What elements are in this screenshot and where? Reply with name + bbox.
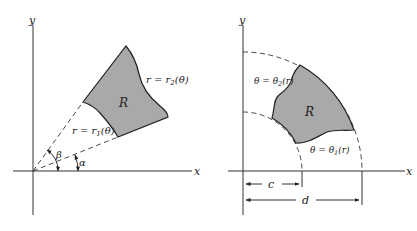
left-y-axis-label: y [28,14,36,27]
left-diagram: y x β α R r = r2(θ) r = r1(θ) [13,14,201,215]
outer-radius-label: d [302,194,309,207]
angle-beta-label: β [55,149,62,160]
right-x-axis-label: x [406,165,413,178]
left-region-label: R [118,96,128,110]
inner-radius-label: c [268,178,274,191]
lower-curve-label: θ = θ1(r) [310,145,350,157]
region-r-left [83,46,168,137]
angle-alpha-label: α [79,157,86,168]
right-region-label: R [304,105,314,119]
outer-curve-label: r = r2(θ) [146,74,189,87]
inner-curve-label: r = r1(θ) [72,125,115,138]
angle-alpha-arc [75,155,78,171]
right-diagram: y x R θ = θ2(r) θ = θ1(r) c d [228,14,413,215]
right-y-axis-label: y [238,14,246,27]
polar-regions-figure: y x β α R r = r2(θ) r = r1(θ) y x R [0,0,417,231]
left-x-axis-label: x [194,165,201,178]
